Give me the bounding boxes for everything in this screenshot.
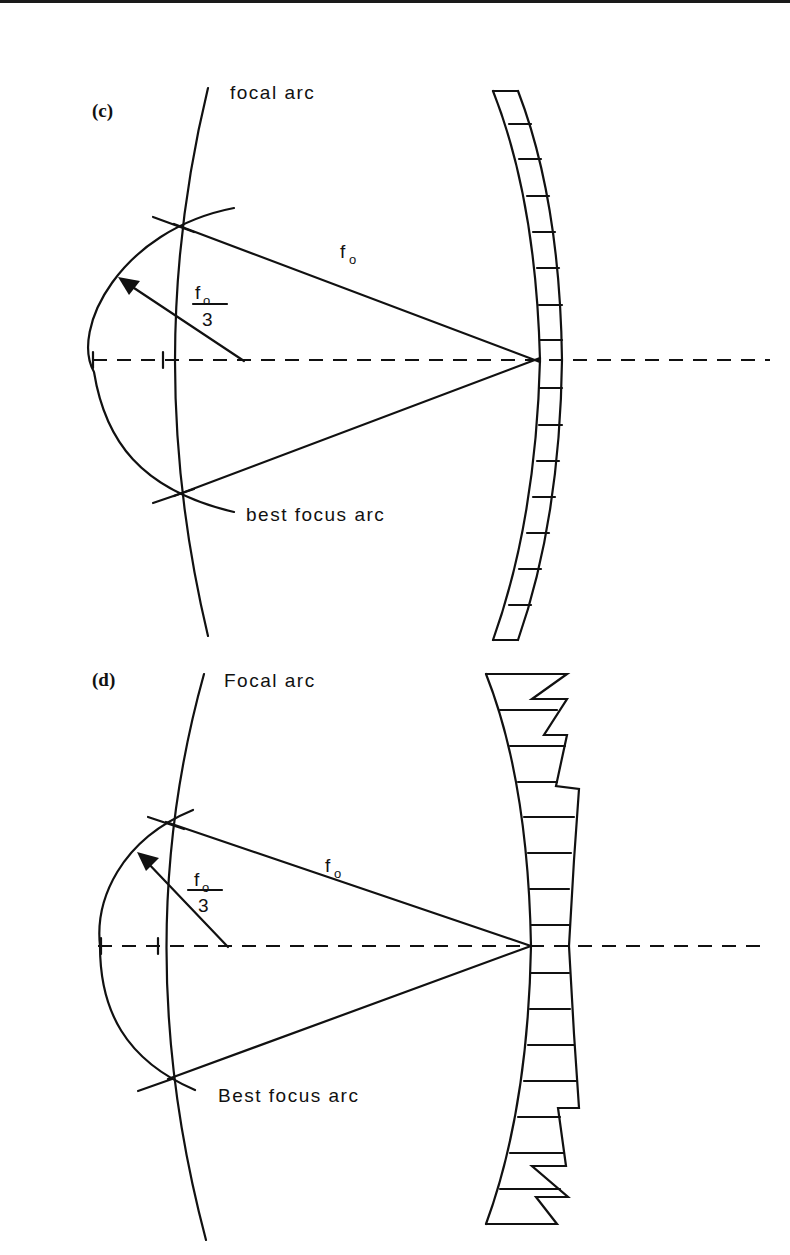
focal-arc bbox=[175, 88, 208, 636]
focal-arc bbox=[166, 674, 206, 1240]
ray-lower bbox=[168, 946, 531, 1079]
best-focus-arc-label: Best focus arc bbox=[218, 1085, 359, 1106]
focal-length-label: f bbox=[340, 241, 346, 262]
radius-arrow-shaft bbox=[145, 860, 228, 947]
ray-upper bbox=[174, 224, 540, 362]
focal-arc-label: focal arc bbox=[230, 82, 315, 103]
segmented-mirror-d bbox=[486, 674, 579, 1224]
radius-arrow-shaft bbox=[128, 284, 244, 361]
best-focus-arc bbox=[88, 208, 234, 512]
focal-length-label: f bbox=[325, 855, 331, 876]
radius-denominator: 3 bbox=[202, 309, 213, 330]
focal-arc-label: Focal arc bbox=[224, 670, 316, 691]
radius-numerator-subscript: o bbox=[203, 293, 210, 308]
best-focus-arc-label: best focus arc bbox=[246, 504, 385, 525]
panel-c: (c) focal arc best focus arc f o f o 3 bbox=[88, 82, 770, 640]
radius-numerator: f bbox=[194, 869, 200, 890]
segmented-mirror-c bbox=[493, 91, 562, 640]
radius-numerator-subscript: o bbox=[202, 880, 209, 895]
best-focus-arc bbox=[99, 810, 195, 1090]
panel-c-label: (c) bbox=[92, 100, 113, 122]
focal-length-subscript: o bbox=[349, 252, 356, 267]
arrowhead-icon bbox=[118, 277, 140, 295]
panel-d-label: (d) bbox=[92, 669, 115, 691]
ray-lower bbox=[174, 358, 540, 496]
focal-length-subscript: o bbox=[334, 866, 341, 881]
radius-numerator: f bbox=[195, 282, 201, 303]
radius-denominator: 3 bbox=[198, 895, 209, 916]
intersection-tick bbox=[138, 1079, 172, 1091]
panel-d: (d) Focal arc Best focus arc f o f o 3 bbox=[92, 669, 760, 1240]
ray-upper bbox=[166, 822, 531, 946]
arrowhead-icon bbox=[137, 852, 159, 871]
mirror-focus-diagram: (c) focal arc best focus arc f o f o 3 bbox=[0, 0, 790, 1255]
